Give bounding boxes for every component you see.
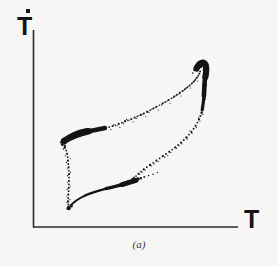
figure-caption: (a) (0, 238, 278, 250)
y-axis-label-text: T (17, 14, 32, 39)
x-axis-label: T (244, 207, 259, 232)
phase-portrait-figure: T T (a) (0, 0, 278, 266)
left-branch-points (63, 146, 71, 205)
y-axis-label: T (17, 9, 43, 39)
axis-lines (33, 30, 238, 228)
plot-canvas (0, 0, 278, 266)
left-dense-cluster (60, 127, 105, 146)
upper-branch-points (105, 71, 201, 131)
lower-middle-dense-cluster (67, 172, 159, 210)
right-branch-points (133, 112, 203, 179)
scatter-series (60, 61, 208, 210)
upper-right-dense-cluster (192, 61, 208, 110)
